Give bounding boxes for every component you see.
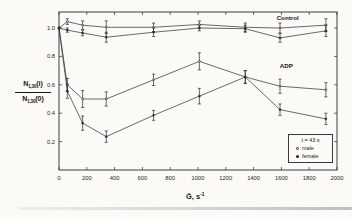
series-adp-lower: [58, 27, 327, 142]
x-tick-label: 1400: [247, 175, 260, 181]
scan-shadow-strip: [18, 207, 352, 210]
y-axis-label-denominator: N1,30(0): [15, 92, 51, 107]
region-label-adp: ADP: [280, 62, 293, 69]
data-point: [279, 85, 281, 87]
data-point: [58, 27, 60, 29]
data-point: [325, 118, 327, 120]
x-tick-label: 2000: [331, 175, 344, 181]
legend-item-label: male: [302, 144, 314, 152]
x-tick-label: 800: [165, 175, 175, 181]
x-tick-label: 1600: [275, 175, 288, 181]
data-point: [82, 122, 84, 124]
data-point: [66, 29, 68, 31]
data-point: [153, 79, 155, 81]
x-tick-label: 200: [82, 175, 92, 181]
data-point: [153, 114, 155, 116]
data-point: [198, 60, 200, 62]
legend-item-male: male: [289, 144, 332, 152]
data-point: [244, 76, 246, 78]
x-tick-label: 1000: [192, 175, 205, 181]
data-point: [279, 27, 281, 29]
y-tick-label: 1.0: [47, 25, 55, 31]
data-point: [105, 26, 107, 28]
y-tick-label: 0.8: [47, 53, 55, 59]
data-point: [66, 21, 68, 23]
y-tick-label: 0.4: [47, 110, 56, 116]
x-axis-label: Ḡ, s-1: [186, 191, 205, 201]
legend-box: t = 43 s malefemale: [288, 134, 333, 163]
data-point: [105, 36, 107, 38]
data-point: [279, 109, 281, 111]
data-point: [198, 95, 200, 97]
open-circle-marker-icon: [296, 147, 299, 150]
data-point: [325, 89, 327, 91]
legend-item-female: female: [289, 152, 332, 160]
data-point: [279, 37, 281, 39]
x-tick-label: 0: [57, 175, 60, 181]
x-tick-label: 600: [138, 175, 148, 181]
data-point: [105, 136, 107, 138]
data-point: [244, 28, 246, 30]
filled-circle-marker-icon: [296, 155, 299, 158]
data-point: [82, 98, 84, 100]
legend-title: t = 43 s: [289, 137, 332, 144]
data-point: [82, 24, 84, 26]
data-point: [198, 27, 200, 29]
x-tick-label: 1200: [219, 175, 232, 181]
data-point: [105, 98, 107, 100]
data-point: [82, 32, 84, 34]
data-point: [325, 30, 327, 32]
scanned-figure-page: 02004006008001000120014001600180020000.2…: [0, 0, 352, 217]
y-axis-label-numerator: N1,30(i): [12, 78, 54, 92]
region-label-control: Control: [277, 14, 299, 21]
x-tick-label: 1800: [303, 175, 316, 181]
line-chart-canvas: 02004006008001000120014001600180020000.2…: [0, 0, 352, 217]
data-point: [153, 31, 155, 33]
data-point: [66, 90, 68, 92]
legend-item-label: female: [302, 152, 319, 160]
y-axis-label: N1,30(i) N1,30(0): [12, 78, 54, 106]
x-tick-label: 400: [110, 175, 120, 181]
y-tick-label: 0.2: [47, 139, 55, 145]
